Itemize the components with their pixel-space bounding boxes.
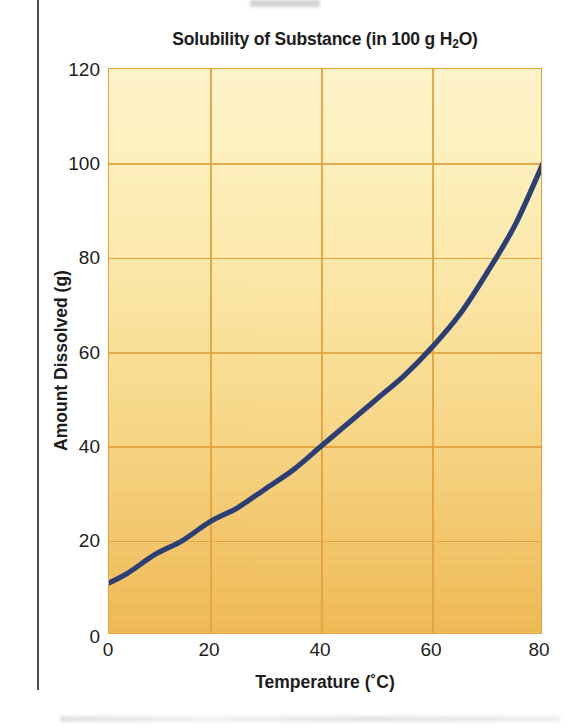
chart-title-subscript: 2 (452, 37, 458, 51)
chart-title: Solubility of Substance (in 100 g H2O) (108, 29, 542, 50)
x-tick-0: 0 (78, 640, 138, 659)
y-tick-20: 20 (40, 531, 100, 550)
plot-area (108, 68, 542, 634)
chart-title-main: Solubility of Substance (in 100 g H (172, 29, 452, 49)
page-scan-artifact-bottom (60, 716, 560, 722)
x-axis-title: Temperature (˚C) (108, 672, 542, 693)
chart-title-tail: O) (459, 29, 478, 49)
x-tick-40: 40 (290, 640, 350, 659)
x-tick-60: 60 (401, 640, 461, 659)
page-scan-artifact-top (250, 0, 320, 7)
y-tick-100: 100 (40, 154, 100, 173)
y-axis-title: Amount Dissolved (g) (51, 256, 72, 466)
x-tick-80: 80 (509, 640, 569, 659)
y-tick-120: 120 (40, 60, 100, 79)
x-tick-20: 20 (179, 640, 239, 659)
series-solubility (109, 69, 542, 634)
